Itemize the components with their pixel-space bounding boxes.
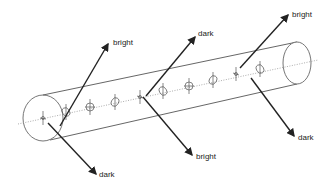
label-bright-lower-mid: bright [196,153,216,161]
arrow-lower-right [251,78,294,136]
molecule-icon [233,67,239,81]
molecule-icon [158,83,169,99]
label-dark-lower-left: dark [99,171,115,179]
label-dark-lower-right: dark [298,134,314,142]
arrow-upper-mid [146,37,195,96]
cylinder-right-end [283,42,311,84]
molecule-icon [184,78,194,94]
label-dark-upper-mid: dark [198,30,214,38]
arrow-lower-mid [143,97,192,155]
label-bright-upper-left: bright [113,39,133,47]
molecule-icon [110,94,121,110]
molecules [40,61,265,125]
molecule-icon [61,104,72,120]
label-bright-upper-right: bright [292,11,312,19]
cylinder-bottom-edge [50,84,297,140]
molecule-icon [85,99,95,115]
cylinder-top-edge [43,42,297,95]
molecule-icon [137,90,143,104]
molecule-icon [208,72,219,88]
arrow-upper-left [60,44,108,126]
molecule-icon [255,61,266,77]
arrow-upper-right [240,15,288,68]
arrow-lower-left [48,123,96,174]
diagram-canvas [0,0,329,188]
